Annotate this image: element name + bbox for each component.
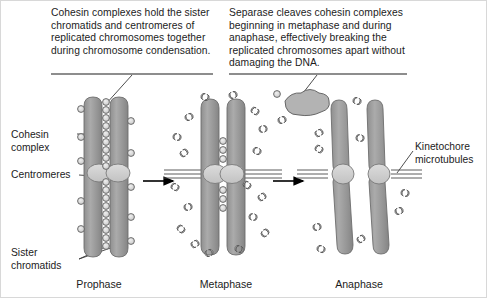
anaphase-centromere-right	[368, 164, 390, 184]
metaphase-microtubule-icon-right	[233, 170, 282, 178]
cohesin-caption-text: Cohesin complexes hold the sister chroma…	[51, 7, 211, 57]
anaphase-microtubule-icon-left	[297, 170, 328, 178]
anaphase-cleaved-cohesin-rings	[312, 97, 410, 254]
prophase-chromatid-right	[110, 97, 128, 257]
separase-cleaved-ring	[277, 116, 287, 125]
metaphase-chromatid-left	[201, 99, 219, 255]
figure-canvas: Cohesin complexes hold the sister chroma…	[0, 0, 487, 298]
sister-chromatids-leader-right	[79, 245, 119, 259]
metaphase-centromere-right	[220, 165, 244, 184]
phase-label-anaphase: Anaphase	[319, 278, 399, 290]
anaphase-microtubule-icon-right	[391, 170, 422, 178]
metaphase-chromosome	[164, 91, 282, 258]
metaphase-cleaved-cohesin-rings	[170, 91, 270, 258]
separase-caption-leader	[300, 75, 317, 97]
anaphase-chromosomes	[297, 97, 422, 254]
metaphase-chromatid-right	[227, 99, 245, 255]
phase-label-prophase: Prophase	[59, 278, 139, 290]
metaphase-microtubule-icon-left	[164, 170, 213, 178]
cohesin-caption-rule	[51, 73, 213, 75]
metaphase-cohesin-ring-column	[220, 138, 227, 212]
cohesin-caption-leader	[105, 75, 132, 105]
separase-caption-text: Separase cleaves cohesin complexes begin…	[229, 7, 409, 70]
separase-enzyme-icon	[285, 90, 329, 116]
kinetochore-microtubules-label: Kinetochore microtubules	[415, 141, 485, 166]
anaphase-centromere-left	[332, 164, 354, 184]
separase-target-ring	[274, 91, 281, 98]
anaphase-chromatid-right	[367, 100, 389, 254]
sister-chromatids-leader-left	[79, 247, 105, 259]
anaphase-chromatid-left	[331, 100, 353, 254]
phase-label-metaphase: Metaphase	[186, 278, 266, 290]
metaphase-centromere-left	[203, 165, 227, 184]
prophase-centromere-right	[106, 164, 130, 182]
prophase-cohesin-ring-column	[103, 99, 110, 250]
separase-caption-rule	[229, 73, 407, 75]
cohesin-complex-label: Cohesin complex	[11, 129, 73, 154]
sister-chromatids-label: Sister chromatids	[11, 247, 77, 272]
centromeres-label: Centromeres	[11, 169, 91, 182]
kinetochore-microtubules-leader	[397, 151, 413, 173]
